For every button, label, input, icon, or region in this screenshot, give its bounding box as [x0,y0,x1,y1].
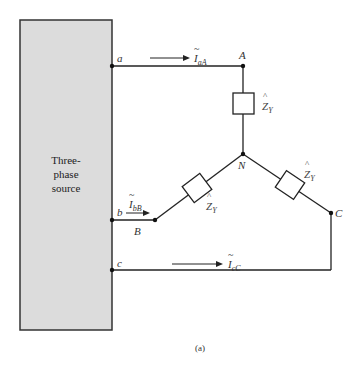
node-A [241,64,245,68]
node-N [241,152,245,156]
node-B-label: B [134,226,141,237]
impedance-A-label: ZY [262,100,273,115]
impedance-B-label: ZY [206,200,217,215]
terminal-a-label: a [117,53,123,64]
source-label: Three- phase source [20,153,112,195]
impedance-A [233,93,254,114]
node-C [329,211,333,215]
current-subscript: cC [232,264,241,273]
node-A-label: A [239,50,246,61]
impedance-subscript: Y [212,206,216,215]
impedance-C-label: ZY [304,168,315,183]
current-subscript: bB [133,204,142,213]
node-B [153,218,157,222]
figure-caption: (a) [195,343,205,353]
impedance-symbol: Z [262,100,268,112]
impedance-symbol: Z [206,200,212,212]
arrow-right-icon [172,261,223,267]
terminal-c-label: c [117,258,122,269]
impedance-symbol: Z [304,168,310,180]
source-label-line-2: phase [20,167,112,181]
current-cC-label: IcC [228,258,241,273]
current-symbol: I [228,258,232,270]
current-subscript: aA [198,58,207,67]
source-label-line-3: source [20,181,112,195]
node-c [110,268,114,272]
node-a [110,64,114,68]
current-symbol: I [194,52,198,64]
impedance-C [275,171,304,200]
terminal-b-label: b [117,207,123,218]
node-N-label: N [238,160,245,171]
node-C-label: C [335,208,342,219]
impedance-subscript: Y [268,106,272,115]
impedance-subscript: Y [310,174,314,183]
current-aA-label: IaA [194,52,207,67]
source-label-line-1: Three- [20,153,112,167]
arrow-right-icon [150,55,190,61]
current-symbol: I [129,198,133,210]
node-b [110,218,114,222]
current-bB-label: IbB [129,198,142,213]
